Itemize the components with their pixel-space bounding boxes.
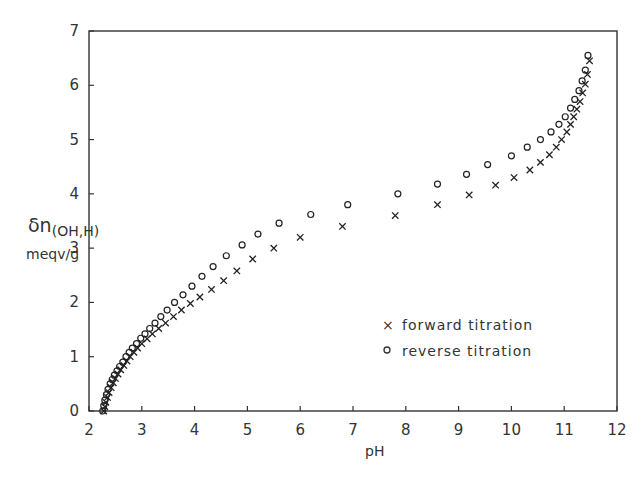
reverse-point <box>485 162 491 168</box>
titration-chart: 2345678910111201234567 pH δn(OH,H) meqv/… <box>0 0 641 486</box>
forward-point <box>492 182 498 188</box>
reverse-point <box>308 211 314 217</box>
forward-point <box>220 278 226 284</box>
forward-point <box>170 313 176 319</box>
x-tick-label: 7 <box>348 421 358 439</box>
plot-frame <box>89 31 617 411</box>
legend-forward-label: forward titration <box>402 317 533 333</box>
reverse-point <box>239 242 245 248</box>
legend-forward-marker: × <box>382 317 395 333</box>
forward-point <box>574 106 580 112</box>
forward-point <box>234 268 240 274</box>
reverse-point <box>172 299 178 305</box>
reverse-point <box>255 231 261 237</box>
forward-titration-series <box>101 58 593 415</box>
reverse-point <box>434 181 440 187</box>
reverse-point <box>537 137 543 143</box>
forward-point <box>187 300 193 306</box>
legend-reverse-marker <box>384 347 390 353</box>
reverse-point <box>134 341 140 347</box>
forward-point <box>178 307 184 313</box>
y-tick-label: 2 <box>69 293 79 311</box>
reverse-point <box>180 292 186 298</box>
axis-labels: pH δn(OH,H) meqv/g <box>26 214 384 459</box>
reverse-point <box>572 96 578 102</box>
forward-point <box>537 159 543 165</box>
reverse-point <box>568 105 574 111</box>
forward-point <box>571 114 577 120</box>
reverse-point <box>152 320 158 326</box>
x-tick-label: 9 <box>454 421 464 439</box>
x-tick-label: 4 <box>190 421 200 439</box>
forward-point <box>392 212 398 218</box>
x-tick-label: 3 <box>137 421 147 439</box>
forward-point <box>271 245 277 251</box>
forward-point <box>466 192 472 198</box>
forward-point <box>558 136 564 142</box>
x-tick-label: 2 <box>84 421 94 439</box>
reverse-point <box>556 121 562 127</box>
reverse-point <box>524 144 530 150</box>
reverse-point <box>276 220 282 226</box>
forward-point <box>339 223 345 229</box>
data-points <box>100 52 593 414</box>
x-tick-label: 8 <box>401 421 411 439</box>
forward-point <box>208 286 214 292</box>
reverse-point <box>158 314 164 320</box>
reverse-point <box>464 171 470 177</box>
reverse-point <box>345 202 351 208</box>
reverse-point <box>210 264 216 270</box>
y-tick-label: 5 <box>69 131 79 149</box>
forward-point <box>511 174 517 180</box>
reverse-point <box>189 283 195 289</box>
x-tick-label: 10 <box>502 421 521 439</box>
forward-point <box>567 121 573 127</box>
y-tick-label: 0 <box>69 402 79 420</box>
y-tick-label: 7 <box>69 22 79 40</box>
y-axis-unit: meqv/g <box>26 246 79 262</box>
forward-point <box>249 256 255 262</box>
forward-point <box>564 129 570 135</box>
forward-point <box>527 167 533 173</box>
forward-point <box>197 294 203 300</box>
forward-point <box>546 152 552 158</box>
y-tick-label: 4 <box>69 185 79 203</box>
reverse-point <box>164 307 170 313</box>
reverse-point <box>548 129 554 135</box>
x-axis-label: pH <box>365 443 384 459</box>
reverse-point <box>395 191 401 197</box>
forward-point <box>162 320 168 326</box>
x-tick-label: 5 <box>243 421 253 439</box>
forward-point <box>434 202 440 208</box>
plot-axes: 2345678910111201234567 <box>69 22 626 439</box>
reverse-point <box>562 114 568 120</box>
reverse-point <box>585 52 591 58</box>
reverse-point <box>199 273 205 279</box>
legend-reverse-label: reverse titration <box>402 343 532 359</box>
forward-point <box>297 234 303 240</box>
reverse-point <box>508 153 514 159</box>
reverse-titration-series <box>100 52 591 414</box>
x-tick-label: 12 <box>607 421 626 439</box>
y-tick-label: 6 <box>69 76 79 94</box>
y-tick-label: 1 <box>69 348 79 366</box>
reverse-point <box>223 253 229 259</box>
legend: × forward titration reverse titration <box>382 317 533 359</box>
x-tick-label: 11 <box>555 421 574 439</box>
forward-point <box>553 144 559 150</box>
x-tick-label: 6 <box>295 421 305 439</box>
reverse-point <box>579 78 585 84</box>
